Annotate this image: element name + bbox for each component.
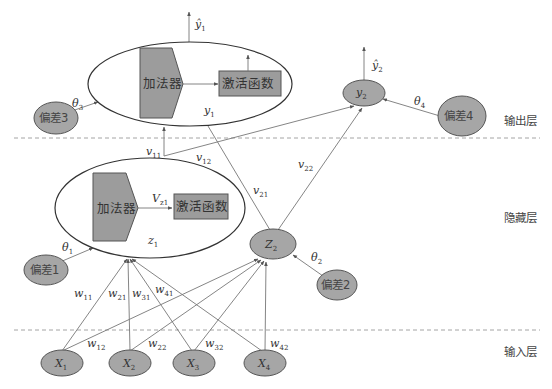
neural-network-diagram: 加法器 激活函数 y1 ŷ1 加法器 激活函数 Vz1 z1 y2 ŷ2 Z2 … [0, 0, 552, 389]
w11-label: w11 [74, 287, 92, 302]
hidden-layer-label: 隐藏层 [504, 211, 537, 225]
theta2-label: θ2 [311, 251, 322, 266]
w22-label: w22 [148, 337, 166, 352]
output-node-y2: y2 [343, 80, 385, 106]
v21-label: v21 [253, 184, 268, 199]
output-neuron-1: 加法器 激活函数 y1 [88, 42, 292, 126]
w32-label: w32 [205, 337, 223, 352]
w42-label: w42 [270, 337, 288, 352]
bias-node-2: 偏差2 [317, 270, 357, 300]
input-node-x1: X1 [41, 350, 83, 376]
output-layer-label: 输出层 [504, 114, 537, 128]
w21-label: w21 [108, 287, 126, 302]
input-node-x3: X3 [173, 350, 215, 376]
yhat1-label: ŷ1 [194, 18, 206, 33]
svg-text:偏差2: 偏差2 [321, 278, 350, 292]
adder-label-hidden: 加法器 [97, 201, 136, 216]
hidden-node-z2: Z2 [250, 229, 296, 259]
svg-text:偏差1: 偏差1 [30, 263, 59, 277]
svg-text:偏差3: 偏差3 [39, 111, 68, 125]
theta4-label: θ4 [414, 95, 426, 110]
v12-label: v12 [196, 151, 211, 166]
adder-label-output: 加法器 [143, 76, 182, 91]
input-layer-label: 输入层 [504, 345, 537, 359]
hidden-neuron-1: 加法器 激活函数 Vz1 z1 [55, 158, 245, 258]
theta1-label: θ1 [62, 241, 73, 256]
activation-label-hidden: 激活函数 [176, 199, 228, 214]
svg-text:偏差4: 偏差4 [444, 109, 473, 123]
input-node-x2: X2 [109, 350, 151, 376]
w41-label: w41 [155, 283, 173, 298]
w12-label: w12 [87, 337, 105, 352]
activation-label-output: 激活函数 [222, 76, 274, 91]
bias-node-1: 偏差1 [24, 255, 68, 285]
w31-label: w31 [132, 287, 150, 302]
input-node-x4: X4 [244, 350, 286, 376]
v22-label: v22 [298, 158, 313, 173]
v11-label: v11 [146, 145, 161, 160]
theta3-label: θ3 [72, 97, 83, 112]
bias-node-4: 偏差4 [438, 96, 486, 136]
yhat2-label: ŷ2 [371, 59, 383, 74]
